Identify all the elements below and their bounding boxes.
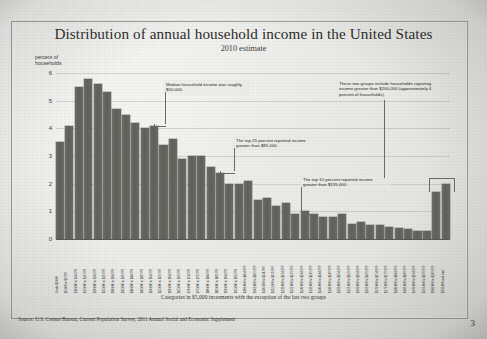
bar [319, 217, 327, 239]
bar [329, 217, 337, 239]
x-axis-tick-label: $85,000 to $89,999 [216, 241, 224, 293]
x-axis-tick-label: $35,000 to $39,999 [122, 241, 130, 293]
bar [141, 128, 149, 239]
bar [395, 228, 403, 239]
x-axis-tick-label: $165,000 to $169,999 [366, 241, 374, 293]
x-axis-tick-label: Under $5,000 [56, 241, 64, 293]
annotation-top25: The top 25 percent reported income great… [233, 136, 323, 151]
annotation-median: Median household income was roughly $50,… [163, 80, 249, 95]
x-axis-tick-label: $145,000 to $149,999 [329, 241, 337, 293]
annotation-leader-line [220, 171, 235, 174]
x-axis-tick-label: $160,000 to $164,999 [357, 241, 365, 293]
page-number: 3 [471, 318, 476, 328]
bar [338, 214, 346, 239]
annotation-bracket [429, 178, 455, 192]
annotation-leader-line [165, 92, 166, 124]
x-axis-tick-label: $115,000 to $119,999 [272, 241, 280, 293]
x-axis-tick-label: $110,000 to $114,999 [263, 241, 271, 293]
bar [131, 123, 139, 239]
x-axis-tick-label: $185,000 to $189,999 [404, 241, 412, 293]
x-axis-tick-label: $10,000 to $14,999 [75, 241, 83, 293]
x-axis-tick-label: $180,000 to $184,999 [395, 241, 403, 293]
y-axis-tick-label: 3 [49, 153, 52, 159]
bar [225, 184, 233, 239]
x-axis-tick-label: $195,000 to $199,999 [423, 241, 431, 293]
bar [413, 231, 421, 239]
bar [159, 145, 167, 239]
x-axis-tick-label: $5,000 to $9,999 [65, 241, 73, 293]
bar [56, 142, 64, 239]
x-axis-tick-label: $80,000 to $84,999 [207, 241, 215, 293]
bar [291, 214, 299, 239]
x-axis-tick-label: $250,000 and over [442, 241, 450, 293]
bar [150, 126, 158, 239]
x-axis-tick-label: $65,000 to $69,999 [178, 241, 186, 293]
bar [65, 126, 73, 239]
bar [178, 159, 186, 239]
x-axis-tick-labels: Under $5,000$5,000 to $9,999$10,000 to $… [56, 241, 450, 293]
chart-title: Distribution of annual household income … [0, 25, 487, 43]
x-axis-tick-label: $15,000 to $19,999 [84, 241, 92, 293]
bar [216, 173, 224, 239]
annotation-leader-line [301, 212, 315, 215]
x-axis-tick-label: $135,000 to $139,999 [310, 241, 318, 293]
x-axis-tick-label: $45,000 to $49,999 [141, 241, 149, 293]
bar [197, 156, 205, 239]
x-axis-caption: Categories in $5,000 increments with the… [0, 294, 487, 300]
bar [84, 79, 92, 239]
y-axis-label: percent of households [35, 54, 62, 67]
x-axis-tick-label: $95,000 to $99,999 [235, 241, 243, 293]
x-axis-tick-label: $130,000 to $134,999 [301, 241, 309, 293]
bar [357, 222, 365, 239]
y-axis-tick-label: 1 [49, 208, 52, 214]
x-axis-tick-label: $105,000 to $109,999 [254, 241, 262, 293]
bar [169, 139, 177, 239]
bar [432, 192, 440, 239]
bar [94, 84, 102, 239]
x-axis-tick-label: $55,000 to $59,999 [159, 241, 167, 293]
bar [442, 184, 450, 239]
y-axis-tick-label: 6 [49, 70, 52, 76]
x-axis-tick-label: $200,000 to $249,999 [432, 241, 440, 293]
bar [404, 229, 412, 239]
bar [366, 225, 374, 239]
bar [112, 109, 120, 239]
bar [423, 231, 431, 239]
x-axis-tick-label: $170,000 to $174,999 [376, 241, 384, 293]
y-axis-tick-label: 4 [49, 125, 52, 131]
y-axis-tick-label: 5 [49, 98, 52, 104]
annotation-top-two-groups: These two groups include households repo… [336, 79, 438, 99]
x-axis-tick-label: $190,000 to $194,999 [413, 241, 421, 293]
bar [272, 206, 280, 239]
bar [75, 87, 83, 239]
annotation-leader-line [234, 148, 235, 171]
x-axis-tick-label: $90,000 to $94,999 [225, 241, 233, 293]
bar [282, 203, 290, 239]
y-axis-tick-label: 2 [49, 181, 52, 187]
x-axis-line [56, 239, 450, 240]
annotation-leader-line [301, 187, 302, 212]
x-axis-tick-label: $140,000 to $144,999 [319, 241, 327, 293]
bar [263, 198, 271, 240]
x-axis-tick-label: $25,000 to $29,999 [103, 241, 111, 293]
bar [235, 184, 243, 239]
bar [376, 225, 384, 239]
x-axis-tick-label: $60,000 to $64,999 [169, 241, 177, 293]
annotation-top10: The top 10 percent reported income great… [300, 175, 390, 190]
x-axis-tick-label: $100,000 to $104,999 [244, 241, 252, 293]
source-note: Source: U.S. Census Bureau, Current Popu… [18, 316, 235, 322]
x-axis-tick-label: $40,000 to $44,999 [131, 241, 139, 293]
bar [103, 92, 111, 239]
bar [348, 224, 356, 239]
x-axis-tick-label: $50,000 to $54,999 [150, 241, 158, 293]
x-axis-tick-label: $125,000 to $129,999 [291, 241, 299, 293]
bar [254, 200, 262, 239]
x-axis-tick-label: $155,000 to $159,999 [348, 241, 356, 293]
bar [310, 214, 318, 239]
x-axis-tick-label: $75,000 to $79,999 [197, 241, 205, 293]
x-axis-tick-label: $30,000 to $34,999 [112, 241, 120, 293]
bar [244, 181, 252, 239]
bar [301, 211, 309, 239]
x-axis-tick-label: $120,000 to $124,999 [282, 241, 290, 293]
y-axis-tick-label: 0 [49, 236, 52, 242]
